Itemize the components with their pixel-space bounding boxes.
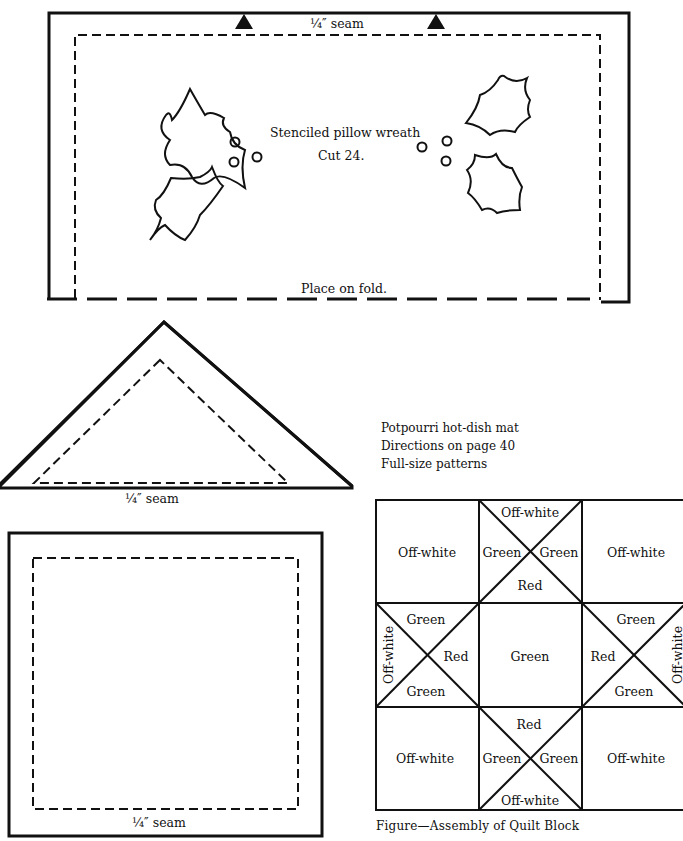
square-seam-line	[33, 558, 298, 809]
pillow-cut-note: Cut 24.	[318, 148, 365, 163]
triangle-notch-icon	[235, 14, 253, 29]
quilt-cell-top-left: Off-white	[398, 545, 456, 560]
square-seam-label: ¼″ seam	[132, 815, 186, 830]
triangle-cut-line	[0, 322, 352, 488]
triangle-seam-line	[34, 360, 288, 483]
pillow-seam-line	[75, 35, 600, 300]
fold-note: Place on fold.	[301, 281, 387, 296]
quilt-cell-mid-left-right: Red	[444, 649, 469, 664]
quilt-cell-mid-right-right: Off-white	[670, 626, 683, 684]
quilt-cell-top-right: Off-white	[607, 545, 665, 560]
quilt-cell-bottom-mid-right: Green	[540, 751, 579, 766]
quilt-cell-top-mid-left: Green	[483, 545, 522, 560]
quilt-cell-center: Green	[511, 649, 550, 664]
quilt-cell-top-mid-top: Off-white	[501, 505, 559, 520]
quilt-cell-mid-left-top: Green	[407, 612, 446, 627]
holly-leaf-icon	[467, 154, 522, 213]
info-directions: Directions on page 40	[381, 437, 519, 455]
triangle-notch-icon	[427, 14, 445, 29]
triangle-cut-outline	[0, 322, 352, 486]
info-size: Full-size patterns	[381, 455, 519, 473]
berry-icon	[230, 158, 239, 167]
berry-icon	[253, 153, 262, 162]
quilt-cell-top-mid-right: Green	[540, 545, 579, 560]
square-cut-line	[9, 533, 322, 836]
pillow-seam-label: ¼″ seam	[310, 16, 364, 31]
triangle-seam-label: ¼″ seam	[125, 491, 179, 506]
berry-icon	[442, 157, 451, 166]
figure-caption: Figure—Assembly of Quilt Block	[376, 819, 579, 833]
quilt-cell-bottom-right: Off-white	[607, 751, 665, 766]
quilt-cell-bottom-mid-bottom: Off-white	[501, 793, 559, 808]
quilt-cell-bottom-mid-top: Red	[517, 717, 542, 732]
quilt-cell-top-mid-bottom: Red	[518, 578, 543, 593]
holly-leaf-icon	[150, 167, 223, 240]
pillow-title: Stenciled pillow wreath	[270, 125, 420, 140]
quilt-cell-mid-right-top: Green	[617, 612, 656, 627]
pattern-info: Potpourri hot-dish mat Directions on pag…	[381, 419, 519, 473]
quilt-cell-mid-right-bottom: Green	[615, 684, 654, 699]
quilt-cell-mid-right-left: Red	[591, 649, 616, 664]
holly-leaf-icon	[466, 76, 530, 135]
quilt-cell-mid-left-left: Off-white	[381, 626, 396, 684]
quilt-cell-bottom-mid-left: Green	[483, 751, 522, 766]
quilt-cell-mid-left-bottom: Green	[407, 684, 446, 699]
quilt-cell-bottom-left: Off-white	[396, 751, 454, 766]
info-title: Potpourri hot-dish mat	[381, 419, 519, 437]
berry-icon	[443, 137, 452, 146]
berry-icon	[418, 143, 427, 152]
